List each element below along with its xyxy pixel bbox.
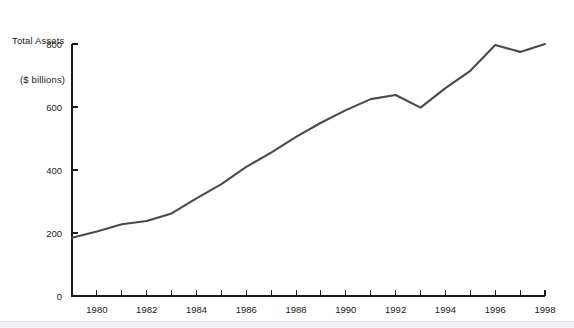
chart-axes	[72, 44, 545, 296]
x-tick-label: 1990	[335, 304, 356, 315]
chart-container: Total Assets ($ billions) 0200400600800 …	[0, 0, 574, 328]
y-tick-label: 0	[57, 291, 62, 302]
y-axis-tick-marks	[72, 44, 78, 296]
x-tick-label: 1998	[534, 304, 555, 315]
y-tick-label: 400	[46, 165, 62, 176]
total-assets-line	[72, 44, 545, 238]
x-tick-label: 1992	[385, 304, 406, 315]
x-tick-label: 1980	[86, 304, 107, 315]
x-tick-label: 1988	[285, 304, 306, 315]
x-tick-label: 1984	[186, 304, 207, 315]
y-tick-label: 600	[46, 102, 62, 113]
footer-divider	[0, 321, 574, 328]
x-tick-label: 1994	[435, 304, 456, 315]
x-tick-label: 1996	[485, 304, 506, 315]
line-chart-plot: 0200400600800 19801982198419861988199019…	[0, 0, 574, 328]
x-tick-label: 1986	[236, 304, 257, 315]
x-tick-label: 1982	[136, 304, 157, 315]
y-tick-label: 800	[46, 39, 62, 50]
x-axis-tick-labels: 1980198219841986198819901992199419961998	[86, 304, 555, 315]
y-tick-label: 200	[46, 228, 62, 239]
x-axis-tick-marks	[97, 290, 545, 296]
y-axis-tick-labels: 0200400600800	[46, 39, 62, 302]
